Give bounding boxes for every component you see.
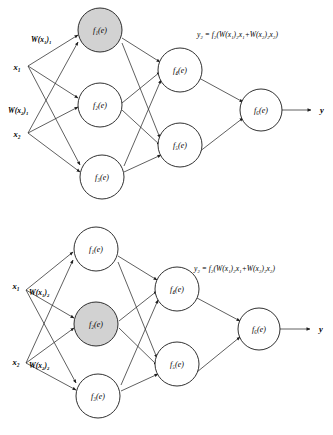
node-f5-label: f₅(e) (173, 141, 187, 150)
formula-bottom: y₂ = f₂(W(x₁)₂x₁+W(x₂)₂x₂) (193, 264, 275, 273)
neural-network-diagram-bottom: f₁(e) f₂(e) f₃(e) f₄(e) f₅(e) f₆(e) x₁ x… (0, 218, 333, 435)
edge-x2-f2 (26, 328, 74, 363)
node-f2-label: f₂(e) (89, 320, 103, 329)
edge-x1-f1 (26, 252, 73, 290)
edge-x2-f1 (26, 260, 73, 363)
edge-f1-f4 (122, 38, 160, 62)
edge-f3-f4 (121, 300, 158, 385)
edge-f2-f4 (119, 291, 157, 321)
node-f5-label: f₅(e) (170, 360, 184, 369)
edge-f1-f5 (122, 43, 160, 138)
node-f3-label: f₃(e) (91, 392, 105, 401)
formula-top: y₂ = f₂(W(x₁)₂x₁+W(x₂)₂x₂) (196, 30, 278, 39)
edge-f3-f4 (124, 80, 161, 166)
input-x1-label: x₁ (12, 62, 20, 72)
node-f3-label: f₃(e) (95, 173, 109, 182)
edge-f4-f6 (199, 78, 243, 102)
edge-x2-f1 (28, 42, 78, 133)
weight-w-x1-2-label: W(x₁)₂ (29, 288, 50, 297)
edge-f2-f4 (122, 72, 160, 103)
edge-f2-f5 (122, 110, 160, 145)
edge-f5-f6 (197, 337, 240, 372)
weight-w-x2-1-label: W(x₂)₁ (8, 106, 29, 115)
node-f1-label: f₁(e) (89, 245, 103, 254)
node-f6-label: f₆(e) (254, 106, 268, 115)
input-x1-label: x₁ (11, 281, 19, 291)
node-f4-label: f₄(e) (173, 66, 187, 75)
edge-f5-f6 (199, 118, 243, 152)
weight-w-x1-1-label: W(x₁)₁ (31, 35, 52, 44)
input-x2-label: x₂ (11, 357, 19, 367)
weight-w-x2-2-label: W(x₂)₂ (29, 361, 50, 370)
edge-f4-f6 (197, 298, 240, 321)
edge-x1-f3 (28, 66, 80, 165)
output-y-label: y (318, 324, 323, 334)
edge-f3-f5 (124, 155, 161, 172)
node-f6-label: f₆(e) (252, 325, 266, 334)
edge-f3-f5 (121, 374, 158, 391)
node-f1-label: f₁(e) (93, 26, 107, 35)
node-f4-label: f₄(e) (170, 285, 184, 294)
node-f2-label: f₂(e) (93, 101, 107, 110)
edge-x2-f3 (28, 133, 80, 172)
output-y-label: y (319, 105, 324, 115)
input-x2-label: x₂ (12, 129, 20, 139)
edge-x1-f2 (28, 66, 78, 98)
neural-network-diagram-top: f₁(e) f₂(e) f₃(e) f₄(e) f₅(e) f₆(e) x₁ x… (0, 0, 333, 217)
